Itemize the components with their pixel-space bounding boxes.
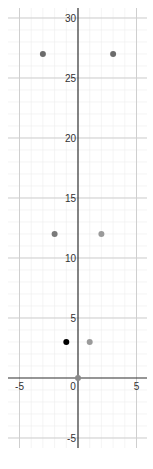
- data-point: [63, 339, 69, 345]
- y-tick-label: 25: [65, 73, 77, 84]
- x-tick-label: 0: [70, 381, 76, 392]
- scatter-plot: -505-551015202530: [0, 0, 153, 469]
- y-tick-label: 30: [65, 13, 77, 24]
- y-tick-label: -5: [67, 433, 76, 444]
- data-point: [87, 339, 93, 345]
- axes: [8, 8, 147, 448]
- data-point: [52, 231, 58, 237]
- y-tick-label: 10: [65, 253, 77, 264]
- data-point: [75, 375, 81, 381]
- x-tick-label: -5: [15, 381, 24, 392]
- y-tick-label: 20: [65, 133, 77, 144]
- data-point: [98, 231, 104, 237]
- y-tick-label: 15: [65, 193, 77, 204]
- y-tick-label: 5: [70, 313, 76, 324]
- data-point: [110, 51, 116, 57]
- x-tick-label: 5: [134, 381, 140, 392]
- data-point: [40, 51, 46, 57]
